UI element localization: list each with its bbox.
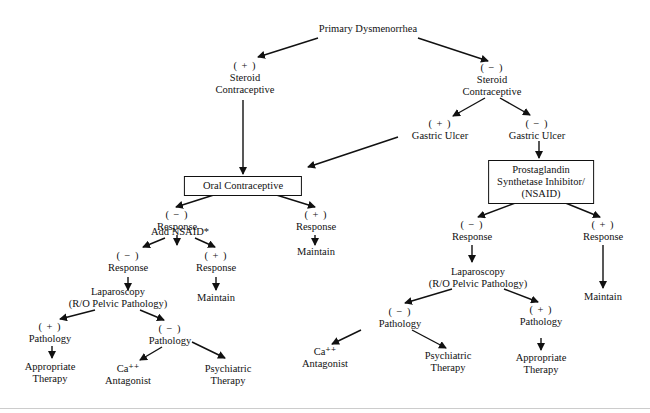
sign-negative: ( − ) — [108, 250, 148, 262]
node-oc-response-positive: ( + ) Response — [296, 209, 336, 233]
node-right-pathology-negative: ( − ) Pathology — [379, 306, 422, 330]
node-add-nsaid: Add NSAID* — [151, 226, 209, 238]
node-nsaid-response-negative: ( − ) Response — [452, 219, 492, 243]
sign-positive: ( + ) — [29, 321, 72, 333]
node-label: Steroid — [463, 74, 522, 86]
node-label: Laparoscopy — [69, 286, 168, 298]
node-label: Maintain — [197, 292, 235, 304]
node-laparoscopy-left: Laparoscopy (R/O Pelvic Pathology) — [69, 286, 168, 310]
sign-positive: ( + ) — [196, 250, 236, 262]
node-gastric-ulcer-positive: ( + ) Gastric Ulcer — [412, 118, 468, 142]
node-left-pathology-positive: ( + ) Pathology — [29, 321, 72, 345]
node-label: Contraceptive — [463, 86, 522, 98]
node-left-ca-antagonist: Ca⁺⁺ Antagonist — [105, 363, 151, 387]
node-add-response-negative: ( − ) Response — [108, 250, 148, 274]
node-label: Response — [196, 262, 236, 274]
node-label: Gastric Ulcer — [412, 130, 468, 142]
node-right-appropriate-therapy: Appropriate Therapy — [516, 352, 567, 376]
node-label: Contraceptive — [216, 84, 275, 96]
box-nsaid: Prostaglandin Synthetase Inhibitor/ (NSA… — [488, 160, 594, 204]
node-label: Response — [108, 262, 148, 274]
node-add-response-positive: ( + ) Response — [196, 250, 236, 274]
node-label: Therapy — [516, 364, 567, 376]
node-label: Add NSAID* — [151, 226, 209, 238]
node-label: Antagonist — [302, 358, 348, 370]
node-label: Appropriate — [25, 361, 76, 373]
node-laparoscopy-right: Laparoscopy (R/O Pelvic Pathology) — [429, 266, 528, 290]
node-label: Ca⁺⁺ — [302, 346, 348, 358]
node-right-psychiatric-therapy: Psychiatric Therapy — [425, 350, 472, 374]
sign-negative: ( − ) — [149, 323, 192, 335]
node-right-ca-antagonist: Ca⁺⁺ Antagonist — [302, 346, 348, 370]
node-label: Synthetase Inhibitor/ — [497, 176, 585, 188]
sign-positive: ( + ) — [583, 219, 623, 231]
node-label: Maintain — [297, 246, 335, 258]
sign-negative: ( − ) — [452, 219, 492, 231]
node-oc-maintain: Maintain — [297, 246, 335, 258]
node-label: Pathology — [520, 316, 563, 328]
node-label: Steroid — [216, 72, 275, 84]
sign-positive: ( + ) — [520, 304, 563, 316]
node-label: Antagonist — [105, 375, 151, 387]
sign-positive: ( + ) — [412, 118, 468, 130]
sign-negative: ( − ) — [157, 209, 197, 221]
node-label: Therapy — [425, 362, 472, 374]
node-steroid-negative: ( − ) Steroid Contraceptive — [463, 62, 522, 98]
node-label: Response — [583, 231, 623, 243]
node-label: Gastric Ulcer — [509, 130, 565, 142]
node-label: Ca⁺⁺ — [105, 363, 151, 375]
node-label: Pathology — [29, 333, 72, 345]
sign-positive: ( + ) — [296, 209, 336, 221]
node-label: (R/O Pelvic Pathology) — [69, 298, 168, 310]
node-label: Pathology — [379, 318, 422, 330]
node-steroid-positive: ( + ) Steroid Contraceptive — [216, 60, 275, 96]
node-label: Oral Contraceptive — [203, 180, 283, 192]
node-label: Prostaglandin — [497, 164, 585, 176]
node-label: (NSAID) — [497, 188, 585, 200]
node-nsaid-maintain: Maintain — [584, 291, 622, 303]
node-label: Psychiatric — [425, 350, 472, 362]
sign-positive: ( + ) — [216, 60, 275, 72]
node-right-pathology-positive: ( + ) Pathology — [520, 304, 563, 328]
node-left-pathology-negative: ( − ) Pathology — [149, 323, 192, 347]
node-left-psychiatric-therapy: Psychiatric Therapy — [205, 363, 252, 387]
node-label: Response — [296, 221, 336, 233]
node-left-appropriate-therapy: Appropriate Therapy — [25, 361, 76, 385]
sign-negative: ( − ) — [509, 118, 565, 130]
bottom-rule — [0, 408, 650, 409]
node-label: Pathology — [149, 335, 192, 347]
node-label: Maintain — [584, 291, 622, 303]
node-label: Therapy — [205, 375, 252, 387]
node-add-maintain: Maintain — [197, 292, 235, 304]
node-label: Appropriate — [516, 352, 567, 364]
node-label: Primary Dysmenorrhea — [319, 23, 417, 35]
node-label: Response — [452, 231, 492, 243]
node-label: Therapy — [25, 373, 76, 385]
node-nsaid-response-positive: ( + ) Response — [583, 219, 623, 243]
node-label: (R/O Pelvic Pathology) — [429, 278, 528, 290]
box-oral-contraceptive: Oral Contraceptive — [184, 176, 302, 196]
node-primary-dysmenorrhea: Primary Dysmenorrhea — [319, 23, 417, 35]
node-gastric-ulcer-negative: ( − ) Gastric Ulcer — [509, 118, 565, 142]
sign-negative: ( − ) — [379, 306, 422, 318]
sign-negative: ( − ) — [463, 62, 522, 74]
node-label: Psychiatric — [205, 363, 252, 375]
node-label: Laparoscopy — [429, 266, 528, 278]
